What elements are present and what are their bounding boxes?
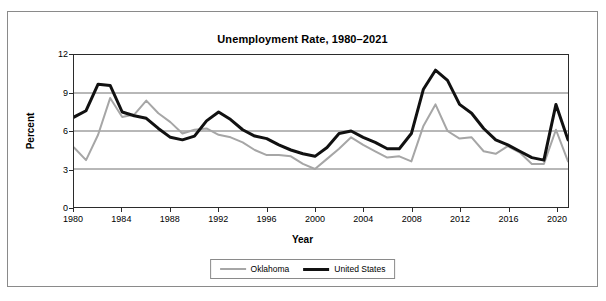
- legend-item-united-states: United States: [303, 264, 385, 274]
- x-axis-tick-label: 2008: [402, 214, 422, 224]
- x-axis-tick-label: 2012: [450, 214, 470, 224]
- y-axis-tick-label: 6: [63, 126, 68, 136]
- x-axis-tick-mark: [170, 208, 171, 212]
- x-axis-tick-label: 2020: [547, 214, 567, 224]
- x-axis-tick-mark: [267, 208, 268, 212]
- legend-swatch-united-states: [303, 268, 329, 271]
- x-axis-tick-mark: [121, 208, 122, 212]
- legend-label-oklahoma: Oklahoma: [251, 264, 290, 274]
- y-axis-tick-label: 0: [63, 203, 68, 213]
- legend-label-united-states: United States: [334, 264, 385, 274]
- chart-legend: Oklahoma United States: [210, 259, 396, 279]
- x-axis-tick-mark: [73, 208, 74, 212]
- y-axis-tick-label: 12: [58, 49, 68, 59]
- plot-area: [73, 54, 569, 208]
- x-axis-tick-mark: [218, 208, 219, 212]
- y-axis-tick-mark: [69, 93, 73, 94]
- x-axis-tick-mark: [460, 208, 461, 212]
- y-axis-tick-label: 3: [63, 165, 68, 175]
- x-axis-tick-label: 1988: [160, 214, 180, 224]
- x-axis-tick-label: 1996: [257, 214, 277, 224]
- legend-swatch-oklahoma: [220, 268, 246, 270]
- chart-figure: Unemployment Rate, 1980–2021 Percent 036…: [7, 11, 598, 287]
- series-line-oklahoma: [74, 98, 568, 169]
- x-axis-label: Year: [8, 234, 597, 245]
- x-axis-tick-mark: [412, 208, 413, 212]
- y-axis-tick-mark: [69, 54, 73, 55]
- y-axis-tick-mark: [69, 131, 73, 132]
- x-axis-tick-mark: [363, 208, 364, 212]
- chart-canvas: [74, 55, 568, 207]
- x-axis-tick-label: 2000: [305, 214, 325, 224]
- y-axis-label: Percent: [25, 113, 36, 150]
- x-axis-tick-label: 2004: [353, 214, 373, 224]
- x-axis-tick-mark: [315, 208, 316, 212]
- x-axis-tick-label: 1992: [208, 214, 228, 224]
- x-axis-tick-mark: [509, 208, 510, 212]
- series-line-united-states: [74, 70, 568, 160]
- chart-title: Unemployment Rate, 1980–2021: [8, 33, 597, 45]
- y-axis-tick-mark: [69, 170, 73, 171]
- legend-item-oklahoma: Oklahoma: [220, 264, 290, 274]
- y-axis-tick-label: 9: [63, 88, 68, 98]
- plot-wrapper: 0369121980198419881992199620002004200820…: [73, 54, 569, 208]
- x-axis-tick-label: 2016: [498, 214, 518, 224]
- x-axis-tick-label: 1980: [63, 214, 83, 224]
- x-axis-tick-mark: [557, 208, 558, 212]
- x-axis-tick-label: 1984: [111, 214, 131, 224]
